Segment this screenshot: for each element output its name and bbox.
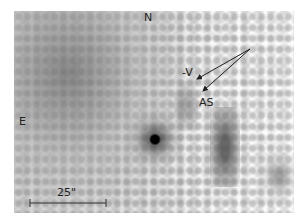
antisolar-arrow	[203, 49, 250, 91]
east-label: E	[19, 116, 26, 127]
velocity-label: -V	[182, 67, 193, 78]
north-label: N	[144, 12, 152, 23]
velocity-arrow	[197, 49, 250, 79]
annotation-overlay	[0, 0, 302, 224]
scale-bar-label: 25"	[57, 187, 76, 198]
scale-bar	[30, 199, 106, 207]
antisolar-label: AS	[199, 97, 214, 108]
